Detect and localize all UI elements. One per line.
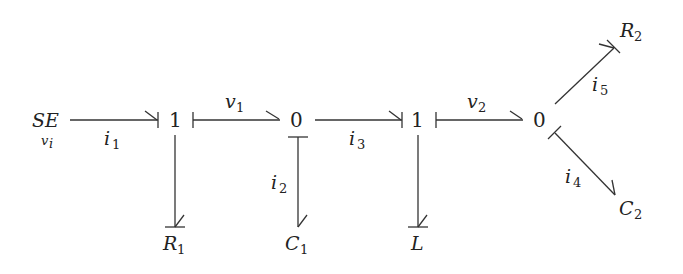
- svg-text:i: i: [592, 73, 598, 95]
- svg-text:v: v: [225, 90, 236, 112]
- svg-text:SE: SE: [32, 109, 59, 131]
- bond-graph-diagram: SE v i i 1 1 v 1 0 i 3 1 v 2 0: [0, 0, 683, 274]
- svg-text:v: v: [467, 90, 478, 112]
- bond-i3: i 3: [315, 111, 402, 152]
- bond-v1: v 1: [193, 90, 280, 128]
- bond-v2: v 2: [436, 90, 523, 128]
- svg-text:1: 1: [112, 137, 120, 152]
- svg-text:i: i: [271, 171, 277, 193]
- svg-text:i: i: [349, 127, 355, 149]
- junction-1a: 1: [169, 108, 182, 132]
- svg-text:1: 1: [300, 242, 308, 257]
- svg-text:5: 5: [600, 83, 608, 98]
- svg-text:i: i: [565, 165, 571, 187]
- node-r1: R 1: [162, 232, 185, 257]
- svg-text:2: 2: [478, 100, 486, 115]
- svg-text:R: R: [162, 232, 177, 254]
- svg-text:C: C: [619, 197, 634, 219]
- bond-i2: i 2: [271, 137, 308, 227]
- bond-i1: i 1: [70, 111, 158, 152]
- bond-to-l: [408, 135, 428, 227]
- bond-to-r1: [165, 135, 185, 227]
- svg-text:3: 3: [357, 137, 365, 152]
- junction-0a: 0: [290, 108, 303, 132]
- node-c1: C 1: [285, 232, 308, 257]
- svg-text:2: 2: [634, 29, 642, 44]
- svg-text:i: i: [49, 136, 53, 151]
- svg-text:1: 1: [177, 242, 185, 257]
- bond-i5: i 5: [555, 40, 620, 104]
- svg-text:C: C: [285, 232, 300, 254]
- node-l: L: [410, 232, 424, 254]
- junction-0b: 0: [533, 108, 546, 132]
- svg-text:i: i: [104, 127, 110, 149]
- svg-text:2: 2: [634, 207, 642, 222]
- node-r2: R 2: [619, 19, 642, 44]
- node-source-se: SE v i: [32, 109, 59, 151]
- svg-text:2: 2: [279, 181, 287, 196]
- junction-1b: 1: [411, 108, 424, 132]
- svg-text:R: R: [619, 19, 634, 41]
- svg-text:v: v: [41, 133, 49, 148]
- bond-i4: i 4: [548, 126, 615, 195]
- node-c2: C 2: [619, 197, 642, 222]
- svg-text:1: 1: [236, 100, 244, 115]
- svg-text:4: 4: [573, 175, 581, 190]
